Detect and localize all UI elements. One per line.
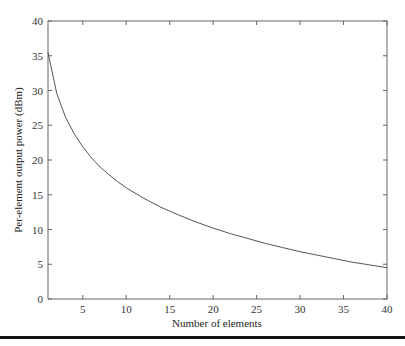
y-tick-label: 25 [32,119,44,131]
x-tick-label: 30 [295,303,307,315]
plot-frame [48,21,387,299]
bottom-rule [0,336,405,339]
y-tick-label: 15 [32,189,44,201]
x-axis-label: Number of elements [172,317,262,329]
x-tick-label: 10 [121,303,133,315]
x-tick-label: 25 [251,303,263,315]
x-tick-label: 15 [164,303,176,315]
y-tick-label: 40 [32,15,44,27]
x-tick-label: 40 [382,303,394,315]
x-tick-label: 35 [338,303,350,315]
y-tick-label: 30 [32,85,44,97]
y-axis-ticks: 0510152025303540 [32,15,387,305]
y-tick-label: 35 [32,50,44,62]
y-tick-label: 10 [32,224,44,236]
y-tick-label: 5 [38,258,44,270]
plot-border [48,21,387,299]
y-axis-label: Per-element output power (dBm) [12,87,25,233]
x-tick-label: 20 [208,303,220,315]
chart: 510152025303540 0510152025303540 Number … [0,0,405,346]
x-axis-ticks: 510152025303540 [80,21,393,315]
data-line [48,52,387,267]
y-tick-label: 0 [38,293,44,305]
y-tick-label: 20 [32,154,44,166]
x-tick-label: 5 [80,303,86,315]
